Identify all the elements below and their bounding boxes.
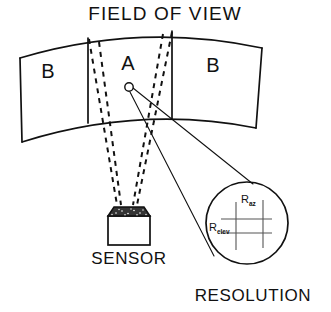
resolution-elevation-base: R [209,221,217,233]
band-left-edge [20,58,22,142]
field-of-view-diagram: FIELD OF VIEW B A B SENSOR RESOLUTION Ra… [0,0,331,312]
sensor-aperture-cap [108,207,150,216]
sensor-graphic [108,207,150,245]
band-right-edge [256,48,262,128]
sensor-body [108,216,150,245]
zone-label-center-a: A [121,52,135,74]
diagram-canvas: FIELD OF VIEW B A B SENSOR RESOLUTION Ra… [0,0,331,312]
resolution-elevation-label: Relev [209,221,230,235]
callout-line-upper [133,88,253,184]
zone-label-left-b: B [41,60,54,82]
band-bottom-arc [22,119,256,142]
page-title: FIELD OF VIEW [88,3,242,24]
resolution-azimuth-label: Raz [241,193,257,207]
zone-label-right-b: B [206,54,219,76]
resolution-elevation-subscript: elev [217,228,230,235]
band-top-arc [20,37,262,58]
resolution-caption: RESOLUTION [195,286,312,305]
resolution-grid [221,200,272,250]
sensor-caption: SENSOR [91,249,166,268]
field-of-view-band [20,31,262,142]
resolution-azimuth-subscript: az [249,200,257,207]
pixel-footprint-marker [125,83,133,91]
resolution-azimuth-base: R [241,193,249,205]
